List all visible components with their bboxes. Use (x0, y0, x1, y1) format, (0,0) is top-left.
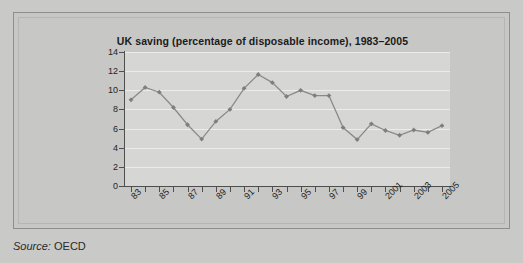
y-axis-tick-mark (119, 109, 124, 110)
y-axis-tick-label: 6 (113, 124, 118, 133)
gridline (125, 52, 450, 53)
x-axis-tick-mark (428, 187, 429, 192)
y-axis-tick-mark (119, 167, 124, 168)
y-axis-tick-label: 10 (108, 86, 118, 95)
gridline (125, 167, 450, 168)
gridline (125, 71, 450, 72)
gridline (125, 109, 450, 110)
y-axis-labels: 14121086420 (92, 52, 118, 186)
source-label: Source: (13, 240, 51, 252)
gridline (125, 148, 450, 149)
x-axis-tick-mark (371, 187, 372, 192)
y-axis-tick-mark (119, 186, 124, 187)
gridline (125, 90, 450, 91)
chart-canvas: UK saving (percentage of disposable inco… (14, 13, 511, 230)
chart-title: UK saving (percentage of disposable inco… (14, 35, 511, 47)
y-axis-tick-mark (119, 90, 124, 91)
figure-frame: UK saving (percentage of disposable inco… (13, 12, 510, 229)
y-axis-tick-label: 14 (108, 48, 118, 57)
y-axis-tick-label: 2 (113, 162, 118, 171)
x-axis-tick-mark (145, 187, 146, 192)
x-axis-tick-mark (343, 187, 344, 192)
x-axis-tick-mark (315, 187, 316, 192)
y-axis-tick-label: 0 (113, 182, 118, 191)
x-axis-tick-mark (173, 187, 174, 192)
source-value: OECD (54, 240, 86, 252)
x-axis-tick-mark (230, 187, 231, 192)
y-axis-tick-label: 4 (113, 143, 118, 152)
y-axis-tick-label: 12 (108, 67, 118, 76)
y-axis-line (124, 51, 125, 187)
source-note: Source: OECD (13, 240, 86, 252)
x-axis-tick-mark (287, 187, 288, 192)
y-axis-tick-mark (119, 148, 124, 149)
y-axis-tick-mark (119, 71, 124, 72)
y-axis-tick-mark (119, 52, 124, 53)
x-axis-tick-mark (202, 187, 203, 192)
plot-area (125, 52, 450, 186)
x-axis-tick-mark (400, 187, 401, 192)
y-axis-tick-mark (119, 129, 124, 130)
x-axis-tick-mark (258, 187, 259, 192)
gridline (125, 129, 450, 130)
y-axis-tick-label: 8 (113, 105, 118, 114)
